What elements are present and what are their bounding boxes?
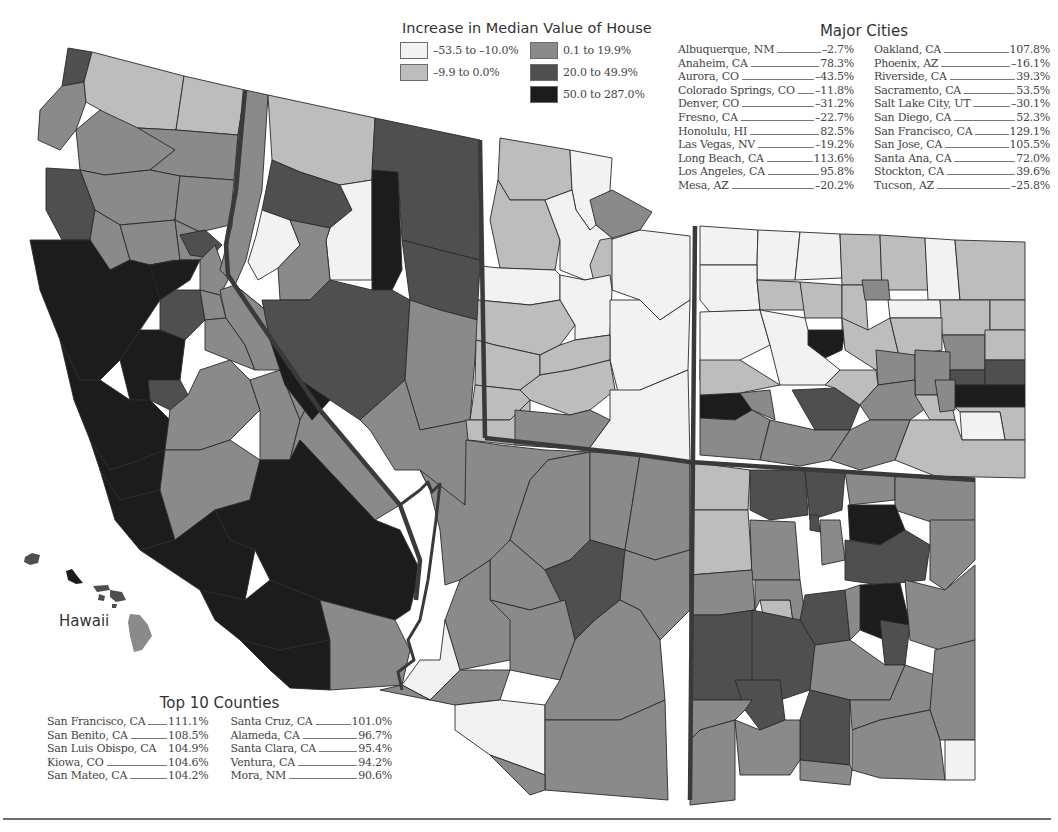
legend-item-mid: 0.1 to 19.9% — [530, 41, 660, 59]
leader-line — [742, 106, 814, 107]
city-value: 39.6% — [1016, 165, 1050, 179]
leader-line — [798, 93, 814, 94]
city-name: Denver, CO — [678, 97, 739, 111]
city-row: Anaheim, CA78.3% — [678, 57, 854, 71]
legend-spacer — [400, 85, 530, 103]
city-name: Phoenix, AZ — [874, 57, 938, 71]
city-value: –19.2% — [815, 138, 854, 152]
county-value: 90.6% — [358, 769, 392, 783]
city-value: 82.5% — [820, 125, 854, 139]
city-value: –16.1% — [1011, 57, 1050, 71]
county-value: 95.4% — [358, 742, 392, 756]
leader-line — [319, 751, 357, 752]
city-name: Salt Lake City, UT — [874, 97, 970, 111]
city-value: 78.3% — [820, 57, 854, 71]
county-row: Kiowa, CO104.6% — [47, 756, 209, 770]
city-name: Oakland, CA — [874, 43, 941, 57]
major-cities-left-column: Albuquerque, NM–2.7% Anaheim, CA78.3% Au… — [678, 43, 854, 193]
state-newmexico — [690, 462, 975, 805]
leader-line — [750, 134, 819, 135]
city-name: Stockton, CA — [874, 165, 944, 179]
major-cities-panel: Major Cities Albuquerque, NM–2.7% Anahei… — [678, 22, 1050, 193]
top-counties-right-column: Santa Cruz, CA101.0% Alameda, CA96.7% Sa… — [231, 715, 393, 783]
city-name: Mesa, AZ — [678, 179, 729, 193]
city-row: Albuquerque, NM–2.7% — [678, 43, 854, 57]
county-value: 111.1% — [168, 715, 208, 729]
county-value: 104.2% — [168, 769, 208, 783]
leader-line — [107, 765, 168, 766]
swatch-low — [400, 64, 428, 81]
leader-line — [768, 174, 819, 175]
city-name: Sacramento, CA — [874, 84, 961, 98]
leader-line — [941, 66, 1010, 67]
leader-line — [130, 778, 167, 779]
hawaii-inset-label: Hawaii — [59, 612, 109, 630]
county-row: San Mateo, CA104.2% — [47, 769, 209, 783]
county-value: 108.5% — [168, 729, 208, 743]
state-arizona — [380, 440, 690, 800]
leader-line — [947, 174, 1015, 175]
swatch-highest — [530, 86, 558, 103]
legend-item-high: 20.0 to 49.9% — [530, 63, 660, 81]
state-colorado — [700, 226, 1025, 478]
swatch-high — [530, 64, 558, 81]
city-row: Tucson, AZ–25.8% — [874, 179, 1050, 193]
city-value: –30.1% — [1011, 97, 1050, 111]
city-row: Fresno, CA–22.7% — [678, 111, 854, 125]
county-name: Santa Clara, CA — [231, 742, 317, 756]
county-row: San Benito, CA108.5% — [47, 729, 209, 743]
city-value: 105.5% — [1010, 138, 1050, 152]
city-value: –25.8% — [1011, 179, 1050, 193]
top-counties-title: Top 10 Counties — [47, 694, 392, 712]
swatch-lowest — [400, 42, 428, 59]
leader-line — [777, 52, 821, 53]
county-name: San Mateo, CA — [47, 769, 127, 783]
city-value: 39.3% — [1016, 70, 1050, 84]
leader-line — [289, 778, 357, 779]
city-name: Santa Ana, CA — [874, 152, 951, 166]
city-row: Riverside, CA39.3% — [874, 70, 1050, 84]
legend-label: –53.5 to –10.0% — [433, 44, 518, 57]
city-row: San Francisco, CA129.1% — [874, 125, 1050, 139]
city-row: Oakland, CA107.8% — [874, 43, 1050, 57]
city-row: Santa Ana, CA72.0% — [874, 152, 1050, 166]
city-row: Sacramento, CA53.5% — [874, 84, 1050, 98]
top-counties-left-column: San Francisco, CA111.1% San Benito, CA10… — [47, 715, 209, 783]
legend-item-low: –9.9 to 0.0% — [400, 63, 530, 81]
city-row: Los Angeles, CA95.8% — [678, 165, 854, 179]
legend-label: 50.0 to 287.0% — [563, 88, 645, 101]
city-row: San Jose, CA105.5% — [874, 138, 1050, 152]
leader-line — [937, 188, 1010, 189]
city-value: –22.7% — [815, 111, 854, 125]
city-row: Stockton, CA39.6% — [874, 165, 1050, 179]
city-value: 72.0% — [1016, 152, 1050, 166]
legend-label: 0.1 to 19.9% — [563, 44, 631, 57]
city-row: Salt Lake City, UT–30.1% — [874, 97, 1050, 111]
city-value: –20.2% — [815, 179, 854, 193]
county-value: 96.7% — [358, 729, 392, 743]
leader-line — [732, 188, 814, 189]
city-name: Riverside, CA — [874, 70, 947, 84]
city-name: Las Vegas, NV — [678, 138, 755, 152]
leader-line — [945, 147, 1008, 148]
city-name: San Jose, CA — [874, 138, 942, 152]
city-name: Fresno, CA — [678, 111, 738, 125]
leader-line — [148, 724, 167, 725]
top-counties-panel: Top 10 Counties San Francisco, CA111.1% … — [47, 694, 392, 783]
legend-title: Increase in Median Value of House — [402, 20, 690, 36]
county-name: Ventura, CA — [231, 756, 295, 770]
city-name: Honolulu, HI — [678, 125, 747, 139]
county-row: Mora, NM90.6% — [231, 769, 393, 783]
county-name: San Francisco, CA — [47, 715, 145, 729]
county-row: Alameda, CA96.7% — [231, 729, 393, 743]
leader-line — [741, 120, 814, 121]
county-value: 94.2% — [358, 756, 392, 770]
city-value: 95.8% — [820, 165, 854, 179]
city-value: –43.5% — [815, 70, 854, 84]
city-name: Albuquerque, NM — [678, 43, 774, 57]
leader-line — [758, 147, 814, 148]
legend: Increase in Median Value of House –53.5 … — [400, 20, 690, 103]
city-value: 53.5% — [1016, 84, 1050, 98]
city-name: Anaheim, CA — [678, 57, 748, 71]
county-value: 104.9% — [168, 742, 208, 756]
